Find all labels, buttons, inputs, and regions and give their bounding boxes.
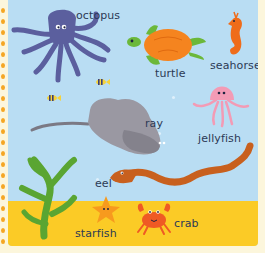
crab-icon — [138, 204, 170, 234]
dotted-border — [0, 0, 7, 253]
turtle-label: turtle — [155, 68, 186, 80]
book-page: octopus turtle seahorse ray jellyfish ee… — [0, 0, 265, 253]
turtle-icon — [127, 25, 206, 64]
ray-label: ray — [145, 118, 163, 130]
small-fish-icon — [96, 79, 110, 85]
jellyfish-icon — [194, 87, 248, 127]
jellyfish-label: jellyfish — [198, 133, 241, 145]
seahorse-label: seahorse — [210, 60, 258, 72]
starfish-icon — [92, 196, 120, 223]
octopus-label: octopus — [76, 10, 120, 22]
seaweed-icon — [22, 160, 74, 236]
crab-label: crab — [174, 218, 199, 230]
ocean-scene: octopus turtle seahorse ray jellyfish ee… — [8, 0, 258, 246]
seahorse-icon — [228, 12, 242, 55]
small-fish-icon — [47, 95, 61, 101]
eel-label: eel — [95, 178, 112, 190]
starfish-label: starfish — [75, 228, 117, 240]
